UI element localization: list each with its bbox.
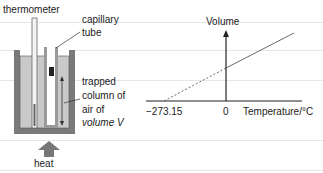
thermometer-label: thermometer <box>3 4 60 16</box>
x-tick-absolute-zero: −273.15 <box>146 106 182 118</box>
trapped-label: trapped <box>82 76 116 88</box>
diagram-canvas <box>0 0 323 173</box>
air-label: air of <box>82 104 104 116</box>
graph <box>146 30 302 101</box>
tube-label: tube <box>82 27 101 39</box>
volume-v-label: volume V <box>82 117 124 129</box>
x-axis-label: Temperature/°C <box>243 106 313 118</box>
x-tick-origin: 0 <box>223 106 229 118</box>
y-axis-label: Volume <box>206 16 239 28</box>
volume-line <box>226 33 294 68</box>
thermometer-icon <box>32 18 37 128</box>
column-label: column of <box>82 90 125 102</box>
heat-arrow-icon <box>38 141 60 157</box>
extrapolation-line <box>164 68 226 101</box>
heat-label: heat <box>34 158 53 170</box>
capillary-label: capillary <box>82 14 119 26</box>
y-axis-arrow-icon <box>223 30 229 37</box>
